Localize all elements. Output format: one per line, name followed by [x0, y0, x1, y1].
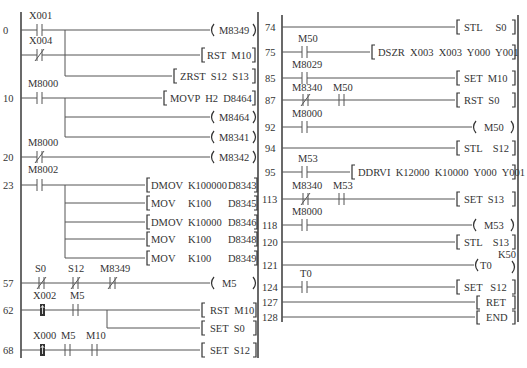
rung-0-branch-x004[interactable]: X004 RST M10	[21, 35, 255, 62]
timer-preset: K50	[498, 249, 516, 260]
instruction-label: DSZR X003 X003 Y000 Y001	[378, 47, 518, 58]
instruction-op: MOV	[151, 198, 176, 209]
bracket-open-icon	[202, 343, 205, 357]
bracket-close-icon	[512, 141, 515, 155]
rung-10-branch-m8464[interactable]: M8464	[65, 111, 256, 123]
bracket-open-icon	[147, 215, 150, 229]
instruction-label: MOVP H2 D8464	[170, 93, 253, 104]
rung-20[interactable]: 20 M8000 M8342	[3, 137, 256, 163]
coil-close-icon	[511, 219, 514, 231]
rung-120[interactable]: 120 STL S13	[262, 235, 515, 249]
contact-pulse-icon	[40, 344, 45, 356]
rung-75[interactable]: 75 M50 DSZR X003 X003 Y000 Y001	[265, 33, 518, 59]
coil-close-icon	[253, 111, 256, 123]
rung-124[interactable]: 124 T0 SET S12	[262, 268, 515, 294]
rung-92[interactable]: 92 M8000 M50	[265, 108, 514, 133]
instruction-label: RET	[486, 297, 506, 308]
step-number: 124	[262, 282, 279, 293]
right-panel: 74 STL S0 75 M50 DSZR X003 X003 Y000 Y00…	[262, 15, 525, 324]
contact-label: M8002	[28, 164, 58, 175]
bracket-open-icon	[164, 91, 167, 105]
rung-23-branch-d8348[interactable]: MOV K100 D8348	[65, 232, 257, 246]
instruction-label: STL S12	[464, 143, 509, 154]
rung-23[interactable]: 23 M8002 DMOV K100000 D8343	[3, 164, 257, 258]
bracket-open-icon	[457, 93, 460, 107]
contact-pulse-icon	[40, 304, 45, 316]
rung-118[interactable]: 118 M8000 M53	[262, 206, 514, 231]
step-number: 57	[3, 278, 14, 289]
bracket-close-icon	[512, 20, 515, 34]
instruction-src: K100000	[188, 180, 227, 191]
bracket-open-icon	[147, 178, 150, 192]
bracket-close-icon	[252, 48, 255, 62]
timer-label: T0	[480, 260, 492, 271]
rung-95[interactable]: 95 M53 DDRVI K12000 K10000 Y000 Y001	[265, 153, 525, 179]
contact-label: M53	[333, 180, 353, 191]
instruction-label: SET S13	[464, 194, 504, 205]
coil-open-icon	[212, 111, 215, 123]
rung-87[interactable]: 87 M8340 M50 RST S0	[265, 82, 515, 107]
instruction-dst: D8349	[228, 253, 257, 264]
rung-127[interactable]: 127 RET	[262, 296, 515, 309]
coil-label: M8349	[219, 25, 249, 36]
instruction-src: K100	[188, 198, 211, 209]
instruction-label: SET M10	[464, 73, 508, 84]
step-number: 20	[3, 152, 14, 163]
step-number: 94	[265, 143, 276, 154]
instruction-label: ZRST S12 S13	[180, 71, 249, 82]
bracket-close-icon	[512, 93, 515, 107]
rung-74[interactable]: 74 STL S0	[265, 20, 515, 34]
rung-113[interactable]: 113 M8340 M53 SET S13	[262, 180, 515, 206]
rung-0-branch-zrst[interactable]: ZRST S12 S13	[65, 69, 255, 83]
rung-23-branch-d8346[interactable]: DMOV K10000 D8346	[65, 215, 257, 229]
bracket-open-icon	[147, 232, 150, 246]
bracket-open-icon	[477, 296, 480, 309]
contact-no-icon	[302, 281, 307, 293]
rung-57[interactable]: 57 S0 S12 M8349 M5	[3, 263, 256, 289]
step-number: 62	[3, 305, 14, 316]
rung-10[interactable]: 10 M8000 MOVP H2 D8464	[3, 78, 255, 137]
contact-no-icon	[37, 179, 42, 191]
contact-no-icon	[302, 166, 307, 178]
instruction-op: DMOV	[151, 217, 184, 228]
bracket-open-icon	[147, 196, 150, 210]
bracket-open-icon	[174, 69, 177, 83]
step-number: 120	[262, 237, 278, 248]
rung-23-branch-d8349[interactable]: MOV K100 D8349	[65, 251, 257, 265]
instruction-label: DDRVI K12000 K10000 Y000 Y001	[358, 167, 525, 178]
contact-label: M8000	[292, 108, 322, 119]
coil-open-icon	[212, 151, 215, 163]
step-number: 10	[3, 93, 14, 104]
rung-23-branch-d8345[interactable]: MOV K100 D8345	[65, 196, 257, 210]
rung-10-branch-m8341[interactable]: M8341	[65, 131, 256, 143]
contact-label: X001	[29, 10, 52, 21]
step-number: 68	[3, 345, 14, 356]
coil-close-icon	[253, 277, 256, 289]
instruction-label: STL S13	[464, 237, 509, 248]
instruction-label: RST S0	[464, 95, 499, 106]
contact-label: M8349	[100, 263, 130, 274]
step-number: 95	[265, 167, 276, 178]
contact-label: M8000	[292, 206, 322, 217]
contact-label: M8000	[28, 137, 58, 148]
coil-close-icon	[253, 151, 256, 163]
step-number: 128	[262, 312, 278, 323]
step-number: 121	[262, 260, 278, 271]
rung-128[interactable]: 128 END	[262, 311, 515, 324]
contact-label: M8029	[292, 59, 322, 70]
instruction-dst: D8345	[228, 198, 257, 209]
coil-open-icon	[474, 219, 477, 231]
contact-label: M5	[70, 290, 85, 301]
instruction-op: MOV	[151, 234, 176, 245]
contact-label: X004	[29, 35, 53, 46]
instruction-label: RST M10	[210, 305, 254, 316]
bracket-open-icon	[457, 20, 460, 34]
coil-close-icon	[253, 24, 256, 36]
instruction-src: K100	[188, 234, 211, 245]
step-number: 127	[262, 297, 278, 308]
coil-open-icon	[212, 24, 215, 36]
rung-62-branch-set-s0[interactable]: SET S0	[107, 321, 256, 335]
rung-68[interactable]: 68 X000 M5 M10 SET S12	[3, 330, 256, 357]
coil-open-icon	[212, 131, 215, 143]
contact-label: M8340	[292, 180, 322, 191]
